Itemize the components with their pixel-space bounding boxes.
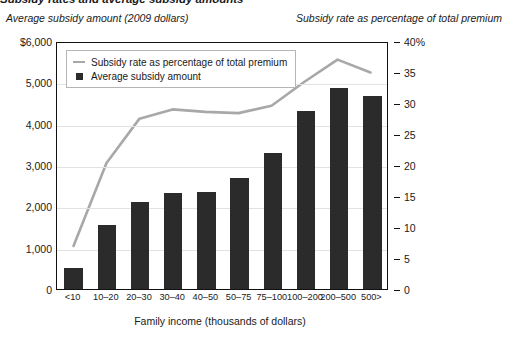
bar <box>64 268 83 289</box>
right-axis-tick-label: 10 <box>394 222 434 234</box>
axis-tickmark <box>394 73 400 74</box>
bar <box>164 193 183 289</box>
figure-title: Subsidy rates and average subsidy amount… <box>0 0 506 5</box>
category-tick-label: 75–100 <box>256 292 287 302</box>
right-axis-tick-label: 30 <box>394 98 434 110</box>
category-tick-label: 500> <box>361 292 382 302</box>
bar <box>98 225 117 289</box>
left-axis-tick-label: 4,000 <box>4 119 52 131</box>
category-tick-label: 20–30 <box>126 292 152 302</box>
left-axis-tick-label: $6,000 <box>4 36 52 48</box>
xaxis-title: Family income (thousands of dollars) <box>0 315 440 327</box>
category-tick-label: 100–200 <box>287 292 323 302</box>
right-axis-tick-label: 25 <box>394 129 434 141</box>
category-tick-label: 200–500 <box>320 292 356 302</box>
legend-item-label: Average subsidy amount <box>91 71 201 82</box>
right-percent-axis: 40%35302520151050 <box>394 42 444 290</box>
left-value-axis: $6,0005,0004,0003,0002,0001,0000 <box>0 42 52 290</box>
bar <box>330 88 349 289</box>
left-axis-tick-label: 2,000 <box>4 201 52 213</box>
line-swatch-icon <box>73 61 85 64</box>
axis-tickmark <box>394 104 400 105</box>
left-axis-tick-label: 0 <box>4 284 52 296</box>
category-tick-label: 50–75 <box>226 292 252 302</box>
right-axis-tick-label: 20 <box>394 160 434 172</box>
category-tick-label: <10 <box>65 292 81 302</box>
right-axis-tick-label: 0 <box>394 284 434 296</box>
left-axis-tick-label: 1,000 <box>4 243 52 255</box>
right-axis-tick-label: 40% <box>394 36 434 48</box>
bar <box>297 111 316 289</box>
right-axis-title: Subsidy rate as percentage of total prem… <box>296 12 502 24</box>
right-axis-tick-label: 15 <box>394 191 434 203</box>
axis-tickmark <box>394 290 400 291</box>
legend-item-subsidy-rate: Subsidy rate as percentage of total prem… <box>73 55 287 69</box>
bar <box>131 202 150 289</box>
bar <box>230 178 249 289</box>
bar <box>264 153 283 289</box>
right-axis-tick-label: 35 <box>394 67 434 79</box>
category-axis: <1010–2020–3030–4040–5050–7575–100100–20… <box>56 292 388 308</box>
chart-figure: Subsidy rates and average subsidy amount… <box>0 0 506 338</box>
axis-tickmark <box>394 197 400 198</box>
square-swatch-icon <box>76 73 83 80</box>
bar <box>197 192 216 289</box>
axis-tickmark <box>394 259 400 260</box>
axis-tickmark <box>394 228 400 229</box>
category-tick-label: 10–20 <box>93 292 119 302</box>
legend-item-average-subsidy: Average subsidy amount <box>73 69 287 83</box>
category-tick-label: 30–40 <box>159 292 185 302</box>
axis-tickmark <box>394 166 400 167</box>
right-axis-tick-label: 5 <box>394 253 434 265</box>
category-tick-label: 40–50 <box>193 292 219 302</box>
left-axis-tick-label: 5,000 <box>4 77 52 89</box>
bar <box>363 96 382 289</box>
legend: Subsidy rate as percentage of total prem… <box>66 50 296 88</box>
left-axis-title: Average subsidy amount (2009 dollars) <box>6 12 189 24</box>
legend-item-label: Subsidy rate as percentage of total prem… <box>91 57 287 68</box>
axis-tickmark <box>394 135 400 136</box>
left-axis-tick-label: 3,000 <box>4 160 52 172</box>
axis-tickmark <box>394 42 400 43</box>
